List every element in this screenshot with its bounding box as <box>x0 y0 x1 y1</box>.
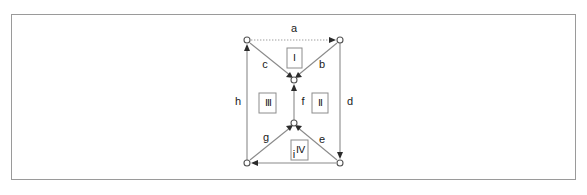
node-top-right <box>337 37 343 43</box>
node-center-upper <box>291 77 297 83</box>
edge-d-arrowhead <box>337 152 343 159</box>
edge-label-c: c <box>262 58 268 70</box>
face-2-label: Ⅱ <box>318 97 323 108</box>
edge-g-line <box>250 127 291 160</box>
edge-f-arrowhead <box>291 84 297 91</box>
edge-label-d: d <box>347 95 353 107</box>
node-bottom-left <box>244 160 250 166</box>
figure-screenshot: Ⅰ Ⅱ Ⅲ Ⅳ a b c d e f g h i <box>0 0 587 195</box>
edge-c-line <box>250 43 291 76</box>
edge-h <box>244 44 250 160</box>
edge-label-i: i <box>293 148 295 160</box>
edge-i <box>251 160 336 166</box>
edge-label-b: b <box>319 58 325 70</box>
face-3-box: Ⅲ <box>259 93 276 113</box>
edge-d <box>337 43 343 159</box>
edge-label-a: a <box>291 22 298 34</box>
edge-label-g: g <box>263 131 269 143</box>
edge-f <box>291 84 297 120</box>
node-bottom-right <box>337 160 343 166</box>
face-1-label: Ⅰ <box>293 52 296 63</box>
node-center-lower <box>291 120 297 126</box>
edge-label-e: e <box>319 133 325 145</box>
edge-a <box>251 37 336 43</box>
face-3-label: Ⅲ <box>265 97 272 108</box>
graph-diagram: Ⅰ Ⅱ Ⅲ Ⅳ a b c d e f g h i <box>0 0 587 195</box>
edge-i-arrowhead <box>251 160 258 166</box>
edge-label-f: f <box>301 95 305 107</box>
edge-g <box>250 125 293 160</box>
edge-label-h: h <box>235 95 241 107</box>
face-4-label: Ⅳ <box>296 144 306 155</box>
edge-b-line <box>297 43 337 76</box>
edge-a-arrowhead <box>329 37 336 43</box>
face-1-box: Ⅰ <box>287 48 302 68</box>
face-2-box: Ⅱ <box>312 93 328 113</box>
node-top-left <box>244 37 250 43</box>
edge-h-arrowhead <box>244 44 250 51</box>
